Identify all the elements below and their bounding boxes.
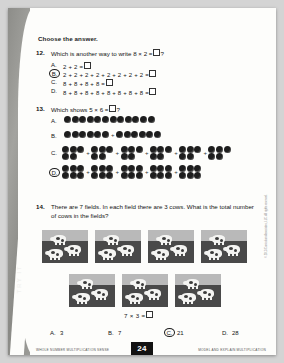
counter-dot	[79, 131, 86, 138]
q12-choice-a-expression[interactable]: 2 + 2 =	[63, 62, 91, 70]
counter-row	[121, 172, 144, 179]
q13-choice-c-counters[interactable]: +++++	[62, 146, 231, 160]
cow-leg	[157, 297, 159, 300]
cow-spot	[203, 291, 207, 294]
counter-dot	[157, 146, 164, 153]
cow-leg	[164, 257, 166, 260]
cow-leg	[191, 301, 193, 304]
question-14-text: There are 7 fields. In each field there …	[51, 203, 256, 220]
counter-row	[150, 165, 173, 172]
plus-sign: +	[174, 150, 178, 156]
cow-spot	[136, 297, 139, 300]
cow-spot	[83, 281, 87, 284]
counter-dot	[139, 131, 146, 138]
counter-dot	[106, 146, 113, 153]
cow-leg	[169, 242, 171, 245]
counter-row	[150, 146, 173, 153]
counter-dot	[64, 131, 71, 138]
counter-dot	[136, 165, 143, 172]
cow-figure	[173, 245, 187, 254]
counter-group	[179, 146, 202, 160]
q13-choice-a-letter[interactable]: A.	[51, 118, 61, 124]
q13-choice-d-counters[interactable]: ++++	[62, 165, 202, 179]
q12-choice-d-letter[interactable]: D.	[51, 88, 61, 94]
q13-choice-a-counters[interactable]	[64, 116, 155, 123]
footer-right-label: MODEL AND EXPLAIN MULTIPLICATION	[156, 348, 266, 352]
question-13-stem: Which shows 5 × 6 =	[51, 106, 108, 113]
counter-row	[121, 153, 144, 160]
q14-choice-c-letter[interactable]: C.	[164, 328, 175, 337]
cow-leg	[236, 253, 238, 256]
q12-choice-a-letter[interactable]: A.	[51, 62, 61, 68]
q13-choice-b-letter[interactable]: B.	[51, 133, 61, 139]
q14-choice-a-value[interactable]: 3	[60, 330, 63, 336]
q14-choice-a-letter[interactable]: A.	[50, 330, 60, 336]
counter-dot	[121, 172, 128, 179]
counter-dot	[99, 153, 106, 160]
plus-sign: +	[86, 169, 90, 175]
cow-spot	[75, 249, 78, 252]
q14-choice-b-letter[interactable]: B.	[108, 330, 118, 336]
counter-dot	[62, 165, 69, 172]
cow-figure	[48, 249, 63, 258]
q12-choice-d-expression[interactable]: 8 + 8 + 8 + 8 + 8 + 8 + 8 + 8 =	[63, 88, 157, 96]
q12-choice-c-expression[interactable]: 8 + 8 + 8 + 8 =	[63, 79, 113, 87]
side-tab-strip	[8, 8, 30, 355]
question-13-stem-end: ?	[116, 106, 119, 113]
q12-choice-c-letter[interactable]: C.	[51, 79, 61, 85]
counter-dot	[146, 131, 153, 138]
cow-spot	[162, 253, 165, 256]
counter-dot	[77, 172, 84, 179]
page-root: TRY IT Choose the answer. 12. Which is a…	[0, 0, 284, 363]
counter-dot	[124, 131, 131, 138]
counter-dot	[62, 146, 69, 153]
cow-field-panels	[36, 230, 268, 308]
q13-choice-c-letter[interactable]: C.	[51, 150, 61, 156]
cow-leg	[126, 253, 128, 256]
cow-figure	[147, 289, 161, 298]
counter-dot	[187, 146, 194, 153]
q14-choice-c-value[interactable]: 21	[177, 330, 184, 336]
counter-row	[62, 165, 85, 172]
q12-choice-b-letter[interactable]: B.	[49, 69, 60, 78]
q13-choice-b-counters[interactable]: +	[64, 131, 162, 138]
counter-group	[121, 146, 144, 160]
counter-dot	[94, 131, 101, 138]
cow-spot	[181, 249, 184, 252]
counter-group	[150, 146, 173, 160]
counter-dot	[99, 172, 106, 179]
cow-leg	[134, 301, 136, 304]
counter-group	[91, 165, 114, 179]
counter-group	[208, 146, 231, 160]
plus-sign: +	[116, 169, 120, 175]
q14-choice-d-letter[interactable]: D.	[222, 330, 232, 336]
q14-choice-d-value[interactable]: 28	[232, 330, 239, 336]
cow-spot	[123, 247, 127, 250]
counter-row	[64, 116, 155, 123]
cow-figure	[186, 279, 199, 287]
counter-dot	[165, 172, 172, 179]
cow-field-panel	[69, 274, 115, 307]
q12-choice-b-expression[interactable]: 2 + 2 + 2 + 2 + 2 + 2 + 2 + 2 =	[63, 70, 157, 78]
counter-dot	[87, 116, 94, 123]
cow-field-panel	[201, 230, 247, 263]
question-12-text: Which is another way to write 8 × 2 =?	[51, 49, 256, 58]
counter-dot	[121, 165, 128, 172]
counter-dot	[91, 146, 98, 153]
counter-dot	[136, 146, 143, 153]
cow-spot	[136, 281, 140, 284]
cow-figure	[75, 293, 90, 302]
q14-choice-b-value[interactable]: 7	[118, 330, 121, 336]
q13-choice-d-letter[interactable]: D.	[49, 168, 60, 177]
cow-leg	[213, 257, 215, 260]
cow-figure	[53, 235, 66, 243]
counter-dot	[62, 153, 69, 160]
counter-row	[91, 165, 114, 172]
counter-row	[121, 146, 144, 153]
counter-dot	[70, 153, 77, 160]
cow-leg	[107, 257, 109, 260]
cow-figure	[212, 235, 225, 243]
cow-figure	[159, 235, 172, 243]
cow-leg	[153, 297, 155, 300]
cow-leg	[116, 242, 118, 245]
